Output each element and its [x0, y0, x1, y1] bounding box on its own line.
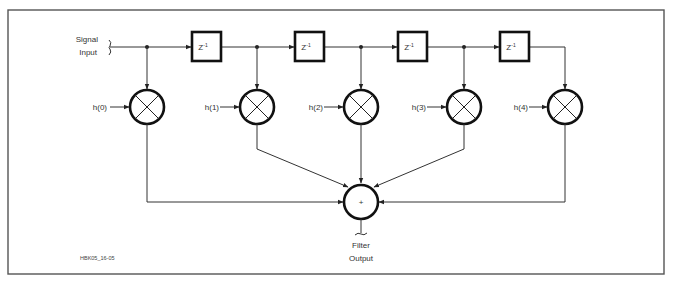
delay-block-3: Z-1 — [398, 32, 427, 61]
coefficient-label-0: h(0) — [93, 103, 108, 112]
figure-frame — [8, 10, 664, 274]
adder: + — [344, 185, 378, 219]
multiplier-0 — [130, 90, 164, 124]
figure-id: HBK05_16-05 — [80, 255, 115, 261]
delay-block-4: Z-1 — [500, 32, 529, 61]
input-label-input: Input — [79, 48, 98, 57]
multiplier-4 — [548, 90, 582, 124]
product-wire-3 — [374, 124, 464, 187]
multiplier-3 — [447, 90, 481, 124]
fir-filter-diagram: Signal Input Z-1 Z-1 Z-1 Z-1 — [0, 0, 673, 281]
output-label-output: Output — [349, 254, 374, 263]
coefficient-label-2: h(2) — [309, 103, 324, 112]
input-label-signal: Signal — [76, 35, 98, 44]
delay-block-1: Z-1 — [192, 32, 221, 61]
output-brace — [355, 233, 367, 235]
multiplier-2 — [344, 90, 378, 124]
delay-block-2: Z-1 — [295, 32, 324, 61]
coefficient-label-1: h(1) — [205, 103, 220, 112]
delay-wire-4 — [530, 47, 565, 89]
multiplier-1 — [240, 90, 274, 124]
product-wire-0 — [147, 124, 343, 202]
coefficient-label-4: h(4) — [514, 103, 529, 112]
coefficient-label-3: h(3) — [412, 103, 427, 112]
product-wire-1 — [257, 124, 348, 187]
product-wire-4 — [379, 124, 565, 202]
output-label-filter: Filter — [352, 241, 370, 250]
svg-text:+: + — [359, 198, 364, 207]
